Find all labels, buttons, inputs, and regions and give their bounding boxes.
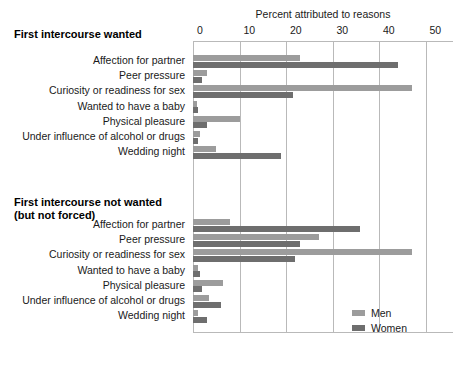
category-label: Affection for partner (13, 54, 193, 66)
category-label: Curiosity or readiness for sex (13, 84, 193, 96)
category-label: Peer pressure (13, 233, 193, 245)
bar-men (193, 295, 209, 301)
bar-women (193, 138, 198, 144)
bar-chart: Percent attributed to reasons First inte… (0, 0, 464, 369)
panel-title-0: First intercourse wanted (14, 28, 142, 41)
bar-women (193, 241, 300, 247)
bar-women (193, 226, 360, 232)
bar-men (193, 146, 216, 152)
legend-item-men: Men (352, 306, 407, 319)
category-label: Wanted to have a baby (13, 100, 193, 112)
category-label: Peer pressure (13, 69, 193, 81)
legend-label-women: Women (371, 322, 407, 334)
x-tick-label-50: 50 (430, 24, 442, 36)
legend-swatch-men-icon (352, 310, 365, 316)
category-label: Affection for partner (13, 218, 193, 230)
x-tick-label-40: 40 (383, 24, 395, 36)
bar-women (193, 122, 207, 128)
bar-men (193, 310, 198, 316)
bar-men (193, 265, 198, 271)
bar-women (193, 77, 202, 83)
gridline-50 (426, 41, 427, 332)
bar-women (193, 302, 221, 308)
category-label: Under influence of alcohol or drugs (13, 130, 193, 142)
bar-women (193, 271, 200, 277)
category-label: Wedding night (13, 145, 193, 157)
legend-item-women: Women (352, 321, 407, 334)
bar-women (193, 92, 293, 98)
bar-men (193, 101, 197, 107)
bar-men (193, 116, 240, 122)
category-label: Physical pleasure (13, 115, 193, 127)
category-label: Under influence of alcohol or drugs (13, 294, 193, 306)
category-label: Wanted to have a baby (13, 264, 193, 276)
bar-men (193, 131, 200, 137)
bar-women (193, 62, 398, 68)
bar-women (193, 153, 281, 159)
legend-label-men: Men (371, 307, 391, 319)
axis-bottom-rule (193, 332, 453, 333)
x-tick-label-30: 30 (337, 24, 349, 36)
x-tick-label-0: 0 (197, 24, 203, 36)
bar-men (193, 249, 412, 255)
bar-women (193, 256, 295, 262)
category-label: Curiosity or readiness for sex (13, 248, 193, 260)
bar-men (193, 219, 230, 225)
bar-women (193, 107, 198, 113)
x-tick-label-10: 10 (244, 24, 256, 36)
bar-men (193, 70, 207, 76)
chart-title: Percent attributed to reasons (193, 8, 453, 20)
legend-swatch-women-icon (352, 325, 365, 331)
bar-men (193, 234, 319, 240)
category-label: Physical pleasure (13, 279, 193, 291)
bar-men (193, 280, 223, 286)
x-tick-label-20: 20 (290, 24, 302, 36)
bar-women (193, 286, 202, 292)
bar-women (193, 317, 207, 323)
bar-men (193, 55, 300, 61)
chart-legend: Men Women (352, 306, 407, 336)
bar-men (193, 85, 412, 91)
category-label: Wedding night (13, 309, 193, 321)
